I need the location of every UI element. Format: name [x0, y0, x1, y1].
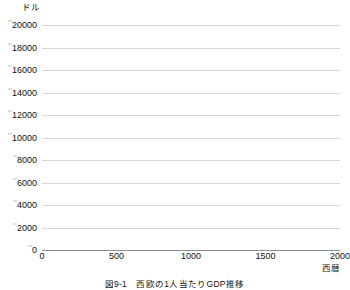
y-tick-label: 8000 — [17, 156, 37, 165]
gridline — [42, 205, 340, 206]
y-tick-mark — [8, 43, 12, 44]
y-tick-label: 14000 — [12, 88, 37, 97]
y-tick-mark — [8, 111, 12, 112]
y-tick-mark — [13, 178, 17, 179]
y-axis-unit-label: ドル — [22, 2, 40, 12]
gridline — [42, 183, 340, 184]
plot-area — [42, 25, 340, 250]
y-tick-mark — [13, 223, 17, 224]
x-tick-label: 500 — [109, 252, 124, 261]
gridline — [42, 228, 340, 229]
y-tick-mark — [13, 156, 17, 157]
x-tick-label: 1000 — [181, 252, 201, 261]
gridline — [42, 138, 340, 139]
x-tick-label: 2000 — [330, 252, 350, 261]
y-tick-label: 16000 — [12, 66, 37, 75]
x-axis-unit-label: 西暦 — [322, 264, 340, 273]
y-tick-label: 18000 — [12, 43, 37, 52]
gridline — [42, 70, 340, 71]
y-tick-mark — [8, 21, 12, 22]
gridline — [42, 48, 340, 49]
y-tick-mark — [8, 66, 12, 67]
y-tick-label: 20000 — [12, 21, 37, 30]
y-tick-mark — [8, 133, 12, 134]
y-tick-mark — [28, 246, 32, 247]
y-tick-label: 10000 — [12, 133, 37, 142]
y-tick-mark — [8, 88, 12, 89]
gridline — [42, 115, 340, 116]
gridline — [42, 25, 340, 26]
figure-caption: 図9-1 西欧の1人当たりGDP推移 — [0, 279, 349, 290]
x-tick-label: 1500 — [255, 252, 275, 261]
gridline — [42, 160, 340, 161]
y-tick-label: 12000 — [12, 111, 37, 120]
y-tick-label: 4000 — [17, 201, 37, 210]
y-tick-label: 6000 — [17, 178, 37, 187]
y-tick-mark — [13, 201, 17, 202]
gridline — [42, 93, 340, 94]
y-tick-label: 0 — [32, 246, 37, 255]
x-tick-label: 0 — [39, 252, 44, 261]
y-tick-label: 2000 — [17, 223, 37, 232]
